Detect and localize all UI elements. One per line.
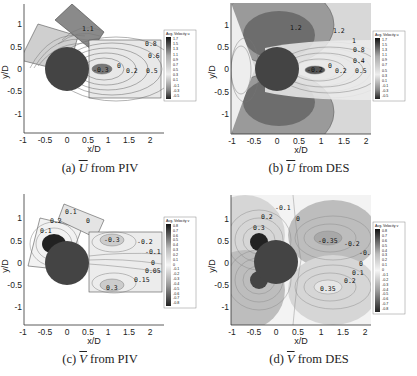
cylinder [45, 241, 89, 285]
svg-text:1.2: 1.2 [290, 24, 302, 32]
svg-text:Avg. Velocity v: Avg. Velocity v [375, 224, 399, 228]
svg-text:-0.2: -0.2 [173, 272, 179, 276]
svg-text:0.2: 0.2 [261, 213, 273, 221]
svg-text:-0.3: -0.3 [382, 89, 388, 93]
svg-text:-0.8: -0.8 [173, 301, 179, 305]
svg-text:0.9: 0.9 [382, 58, 387, 62]
svg-text:0: 0 [224, 258, 229, 268]
svg-text:1.7: 1.7 [382, 38, 387, 42]
svg-text:0: 0 [151, 259, 155, 267]
svg-text:-0.5: -0.5 [38, 327, 53, 337]
svg-text:0.3: 0.3 [173, 248, 178, 252]
svg-text:0.8: 0.8 [382, 229, 387, 233]
svg-text:1.7: 1.7 [173, 37, 178, 41]
contour-plot-a: 1.1 0.8 0.6 -0.3 0 0.2 0.5 -1-0.50 0.511… [0, 0, 205, 165]
svg-text:Avg. Velocity u: Avg. Velocity u [166, 32, 190, 36]
svg-text:1.5: 1.5 [382, 43, 387, 47]
svg-text:Avg. Velocity v: Avg. Velocity v [166, 219, 190, 223]
svg-text:1.1: 1.1 [173, 53, 178, 57]
svg-text:1: 1 [106, 327, 111, 337]
svg-text:0.2: 0.2 [382, 258, 387, 262]
svg-text:-0.5: -0.5 [382, 292, 388, 296]
svg-text:-0.1: -0.1 [145, 248, 161, 256]
svg-text:0.4: 0.4 [173, 243, 178, 247]
panel-d: -0.1 0.2 0.3 0 -0.35 -0.2 -0.1 0 0.1 0.2… [205, 190, 417, 376]
svg-text:-1: -1 [19, 327, 27, 337]
svg-text:0.5: 0.5 [382, 244, 387, 248]
svg-text:0.1: 0.1 [173, 258, 178, 262]
colorbar-d: Avg. Velocity v 0.80.70.60.50.40.30.20.1… [373, 222, 405, 314]
svg-text:x/D: x/D [294, 336, 308, 346]
svg-text:-0.3: -0.3 [382, 283, 388, 287]
svg-text:-0.4: -0.4 [173, 282, 179, 286]
caption-a: (a) U from PIV [40, 161, 160, 176]
svg-text:-0.1: -0.1 [275, 204, 291, 212]
svg-text:0.1: 0.1 [173, 78, 178, 82]
svg-text:0: 0 [275, 136, 280, 146]
svg-text:1.5: 1.5 [337, 327, 349, 337]
svg-text:-0.3: -0.3 [173, 277, 179, 281]
svg-text:-0.5: -0.5 [7, 280, 22, 290]
svg-text:1: 1 [17, 19, 22, 29]
svg-text:-0.2: -0.2 [344, 240, 360, 248]
svg-text:0.15: 0.15 [134, 276, 150, 284]
svg-text:0.7: 0.7 [173, 63, 178, 67]
svg-text:1.5: 1.5 [338, 136, 350, 146]
svg-text:0.4: 0.4 [353, 57, 365, 65]
svg-text:0.8: 0.8 [173, 224, 178, 228]
svg-text:0.2: 0.2 [335, 67, 347, 75]
svg-text:0.05: 0.05 [145, 267, 161, 275]
svg-text:1.1: 1.1 [82, 25, 94, 33]
svg-text:-0.7: -0.7 [173, 296, 179, 300]
svg-text:0.3: 0.3 [106, 284, 118, 292]
cylinder [45, 47, 89, 91]
svg-text:0: 0 [117, 62, 121, 70]
svg-text:-0.2: -0.2 [137, 238, 153, 246]
svg-text:y/D: y/D [0, 65, 10, 79]
svg-text:0.1: 0.1 [382, 79, 387, 83]
svg-text:-0.5: -0.5 [173, 287, 179, 291]
svg-text:-0.6: -0.6 [173, 292, 179, 296]
svg-text:-0.2: -0.2 [382, 278, 388, 282]
panel-a: 1.1 0.8 0.6 -0.3 0 0.2 0.5 -1-0.50 0.511… [0, 0, 205, 190]
svg-text:-1: -1 [221, 302, 229, 312]
svg-text:0.8: 0.8 [145, 40, 157, 48]
caption-b: (b) U from DES [247, 161, 371, 176]
cylinder [255, 47, 299, 91]
svg-text:-0.4: -0.4 [382, 288, 388, 292]
svg-text:0: 0 [296, 215, 300, 223]
svg-text:0.1: 0.1 [352, 269, 364, 277]
svg-text:0: 0 [65, 327, 70, 337]
svg-text:0: 0 [173, 263, 175, 267]
svg-text:0.4: 0.4 [382, 249, 387, 253]
svg-text:1: 1 [319, 327, 324, 337]
svg-text:-0.1: -0.1 [173, 84, 179, 88]
svg-text:0.2: 0.2 [50, 217, 62, 225]
svg-text:0.5: 0.5 [173, 68, 178, 72]
svg-text:-0.5: -0.5 [173, 94, 179, 98]
svg-text:0.7: 0.7 [382, 63, 387, 67]
svg-text:0: 0 [359, 260, 363, 268]
svg-text:Avg. Velocity u: Avg. Velocity u [375, 33, 399, 37]
cylinder [254, 240, 298, 284]
svg-text:-1: -1 [14, 109, 22, 119]
svg-text:-1: -1 [221, 109, 229, 119]
svg-text:2: 2 [364, 136, 369, 146]
svg-text:1: 1 [224, 214, 229, 224]
svg-text:0.35: 0.35 [320, 285, 336, 293]
svg-text:0.5: 0.5 [10, 42, 22, 52]
svg-text:-0.7: -0.7 [382, 302, 388, 306]
svg-text:0.2: 0.2 [173, 253, 178, 257]
svg-text:y/D: y/D [207, 65, 217, 79]
svg-text:0.1: 0.1 [40, 227, 52, 235]
svg-text:-0.3: -0.3 [173, 89, 179, 93]
svg-text:1: 1 [352, 37, 356, 45]
svg-text:-0.5: -0.5 [38, 135, 53, 145]
caption-c: (c) V from PIV [40, 352, 160, 367]
svg-text:-0.5: -0.5 [7, 86, 22, 96]
svg-text:0: 0 [86, 217, 90, 225]
colorbar-a: Avg. Velocity u 1.71.51.31.10.90.70.50.3… [164, 30, 196, 101]
svg-text:0.5: 0.5 [217, 42, 229, 52]
svg-text:1: 1 [17, 213, 22, 223]
svg-text:-0.5: -0.5 [214, 280, 229, 290]
